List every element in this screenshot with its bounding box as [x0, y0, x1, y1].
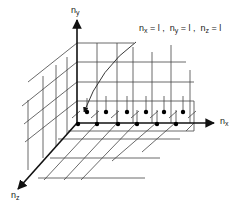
annotation-label: nx = l , ny = l , nz = l [139, 24, 221, 34]
lattice-point [144, 110, 148, 114]
lattice-point [116, 122, 120, 126]
z-axis [18, 123, 77, 189]
lattice-point [174, 122, 178, 126]
lattice-point [76, 122, 80, 126]
lattice-point [162, 110, 166, 114]
side-wall-grid [22, 43, 77, 170]
lattice-point [104, 110, 108, 114]
y-axis-label: ny [71, 6, 80, 16]
annotation-leader-arrow [84, 42, 136, 112]
lattice-point [135, 122, 139, 126]
lattice-posts [72, 96, 196, 124]
lattice-point [125, 110, 129, 114]
x-axis-label: nx [220, 117, 229, 127]
lattice-diagram: ny nx nz nx = l , ny = l , nz = l [0, 0, 240, 209]
lattice-point [155, 122, 159, 126]
z-axis-label: nz [11, 191, 20, 201]
lattice-point [181, 110, 185, 114]
lattice-point [95, 122, 99, 126]
lattice-point [85, 110, 89, 114]
